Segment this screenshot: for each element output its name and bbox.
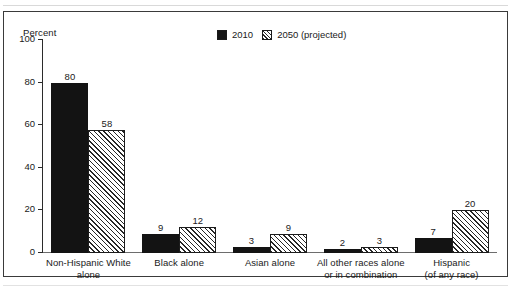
bar-value-label: 7 — [430, 226, 435, 237]
bar-2050-asian-alone[interactable]: 9 — [270, 234, 307, 253]
bar-2010-hispanic[interactable]: 7 — [415, 238, 452, 253]
bar-value-label: 80 — [65, 71, 76, 82]
y-tick-label-20: 20 — [24, 203, 35, 214]
x-axis-category-labels: Non-Hispanic White alone Black alone Asi… — [43, 257, 497, 280]
bar-2050-hispanic[interactable]: 20 — [452, 210, 489, 253]
y-tick-label-80: 80 — [24, 76, 35, 87]
bar-value-label: 12 — [192, 215, 203, 226]
scan-artifact-top-line — [3, 5, 508, 6]
y-tick-label-60: 60 — [24, 118, 35, 129]
bar-value-label: 9 — [286, 222, 291, 233]
category-label-asian-alone: Asian alone — [225, 257, 316, 280]
y-tick-label-40: 40 — [24, 161, 35, 172]
category-label-all-other-races: All other races alone or in combination — [315, 257, 406, 280]
bar-2010-asian-alone[interactable]: 3 — [233, 247, 270, 253]
bar-value-label: 2 — [340, 237, 345, 248]
bar-value-label: 3 — [377, 235, 382, 246]
bar-2010-non-hispanic-white[interactable]: 80 — [51, 83, 88, 253]
bar-group-asian-alone: 3 9 — [225, 39, 316, 253]
legend-swatch-hatched-icon — [262, 30, 272, 40]
bar-chart-figure: Percent 2010 2050 (projected) 100 80 60 — [3, 11, 508, 277]
bar-2010-black-alone[interactable]: 9 — [142, 234, 179, 253]
legend-swatch-solid-icon — [217, 30, 227, 40]
category-label-hispanic: Hispanic (of any race) — [406, 257, 497, 280]
bar-value-label: 9 — [158, 222, 163, 233]
bar-group-all-other-races: 2 3 — [315, 39, 406, 253]
plot-area: 100 80 60 40 20 0 80 — [42, 39, 497, 253]
bar-2050-non-hispanic-white[interactable]: 58 — [88, 130, 125, 254]
bar-2050-all-other-races[interactable]: 3 — [361, 247, 398, 253]
scan-artifact-bottom-line — [3, 285, 508, 286]
bar-2050-black-alone[interactable]: 12 — [179, 227, 216, 253]
bar-group-black-alone: 9 12 — [134, 39, 225, 253]
y-tick-label-100: 100 — [19, 33, 35, 44]
bar-group-non-hispanic-white: 80 58 — [43, 39, 134, 253]
bar-value-label: 58 — [102, 118, 113, 129]
category-label-black-alone: Black alone — [134, 257, 225, 280]
bar-value-label: 20 — [465, 198, 476, 209]
category-label-non-hispanic-white: Non-Hispanic White alone — [43, 257, 134, 280]
y-tick-label-0: 0 — [30, 246, 35, 257]
bar-group-hispanic: 7 20 — [406, 39, 497, 253]
bar-groups: 80 58 9 12 — [43, 39, 497, 253]
bar-value-label: 3 — [249, 235, 254, 246]
bar-2010-all-other-races[interactable]: 2 — [324, 249, 361, 253]
